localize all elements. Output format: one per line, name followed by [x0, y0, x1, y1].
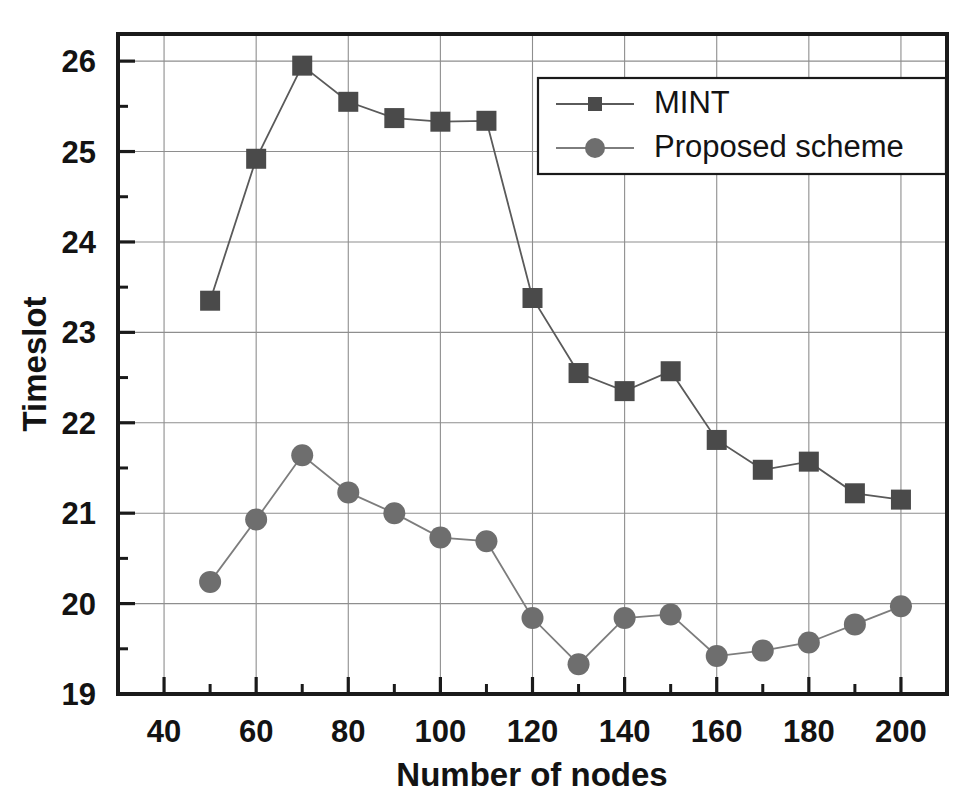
chart-legend[interactable]: MINT Proposed scheme [538, 78, 946, 174]
x-tick-label: 60 [239, 714, 273, 749]
data-point-square [338, 92, 358, 112]
legend-label-mint: MINT [654, 85, 730, 120]
data-point-square [292, 56, 312, 76]
data-point-circle [752, 640, 774, 662]
x-tick-label: 40 [147, 714, 181, 749]
y-tick-label: 21 [62, 496, 96, 531]
y-tick-label: 24 [62, 225, 97, 260]
data-point-square [661, 361, 681, 381]
data-point-circle [429, 527, 451, 549]
data-point-square [753, 460, 773, 480]
x-tick-label: 100 [415, 714, 467, 749]
data-point-square [200, 291, 220, 311]
y-tick-label: 25 [62, 135, 96, 170]
data-point-square [799, 452, 819, 472]
data-point-circle [614, 607, 636, 629]
x-tick-label: 120 [507, 714, 559, 749]
data-point-square [891, 490, 911, 510]
data-point-square [615, 381, 635, 401]
data-point-circle [291, 444, 313, 466]
data-point-square [707, 430, 727, 450]
legend-label-proposed-scheme: Proposed scheme [654, 129, 904, 164]
data-point-square [476, 111, 496, 131]
x-tick-label: 180 [783, 714, 835, 749]
data-point-circle [199, 571, 221, 593]
data-point-circle [844, 613, 866, 635]
data-point-circle [660, 603, 682, 625]
y-tick-label: 23 [62, 315, 96, 350]
data-point-circle [798, 631, 820, 653]
data-point-square [845, 483, 865, 503]
data-point-square [523, 288, 543, 308]
y-tick-label: 19 [62, 677, 96, 712]
y-tick-label: 22 [62, 406, 96, 441]
data-point-circle [475, 530, 497, 552]
data-point-circle [568, 653, 590, 675]
data-point-circle [890, 595, 912, 617]
x-tick-label: 140 [599, 714, 651, 749]
timeslot-vs-nodes-line-chart: 4060801001201401601802001920212223242526… [0, 0, 971, 810]
chart-figure: 4060801001201401601802001920212223242526… [0, 0, 971, 810]
legend-marker-circle-icon [585, 138, 605, 158]
data-point-square [430, 112, 450, 132]
x-tick-label: 200 [875, 714, 927, 749]
y-tick-label: 20 [62, 587, 96, 622]
data-point-circle [337, 481, 359, 503]
data-point-circle [383, 502, 405, 524]
data-point-circle [706, 645, 728, 667]
data-point-circle [522, 607, 544, 629]
data-point-square [246, 149, 266, 169]
data-point-square [569, 363, 589, 383]
data-point-circle [245, 509, 267, 531]
x-tick-label: 80 [331, 714, 365, 749]
x-axis-title: Number of nodes [396, 756, 667, 793]
data-point-square [384, 108, 404, 128]
y-axis-title: Timeslot [16, 296, 53, 431]
x-tick-label: 160 [691, 714, 743, 749]
legend-marker-square-icon [588, 97, 602, 111]
y-tick-label: 26 [62, 44, 96, 79]
